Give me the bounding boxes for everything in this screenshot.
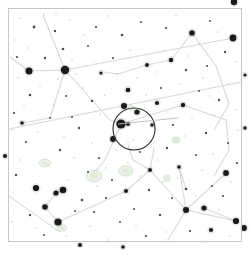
sky-map-canvas[interactable] <box>0 0 249 256</box>
star-medium <box>25 141 27 143</box>
star-bright <box>230 35 237 42</box>
star-faint <box>145 94 147 96</box>
star-medium <box>211 185 213 187</box>
star-medium <box>236 162 238 164</box>
star-bright <box>99 71 102 74</box>
deep-sky-object <box>115 163 137 179</box>
star-faint <box>237 129 239 131</box>
star-medium <box>13 112 15 114</box>
star-medium <box>218 99 220 101</box>
star-medium <box>87 171 89 173</box>
star-faint <box>83 34 85 36</box>
star-medium <box>95 26 97 28</box>
star-bright <box>3 154 7 158</box>
star-medium <box>224 51 226 53</box>
star-medium <box>74 210 76 212</box>
star-medium <box>189 230 191 232</box>
star-medium <box>198 90 200 92</box>
star-medium <box>171 197 173 199</box>
star-medium <box>121 34 124 37</box>
star-medium <box>159 214 161 216</box>
star-bright <box>233 218 239 224</box>
star-medium <box>87 45 89 47</box>
star-faint <box>96 185 98 187</box>
star-faint <box>195 195 197 197</box>
star-bright <box>20 121 24 125</box>
star-medium <box>78 127 80 129</box>
star-faint <box>82 87 84 89</box>
star-bright <box>243 126 246 129</box>
star-medium <box>185 69 187 71</box>
star-faint <box>47 164 49 166</box>
star-faint <box>218 209 220 211</box>
star-faint <box>202 77 204 79</box>
star-faint <box>93 61 95 63</box>
star-faint <box>235 109 237 111</box>
star-faint <box>43 13 45 15</box>
star-bright <box>201 205 206 210</box>
star-faint <box>198 43 200 45</box>
star-faint <box>105 167 107 169</box>
star-medium <box>98 157 100 159</box>
star-bright <box>121 103 127 109</box>
star-medium <box>59 149 61 151</box>
star-bright <box>150 123 153 126</box>
star-faint <box>107 239 109 241</box>
star-faint <box>177 177 179 179</box>
star-bright <box>145 63 149 67</box>
star-faint <box>39 175 41 177</box>
star-medium <box>148 189 150 191</box>
star-faint <box>127 141 129 143</box>
star-medium <box>15 174 17 176</box>
star-medium <box>139 151 141 153</box>
star-faint <box>139 175 141 177</box>
star-faint <box>73 157 75 159</box>
star-medium <box>222 195 224 197</box>
star-medium <box>93 211 95 213</box>
star-faint <box>65 235 67 237</box>
star-faint <box>191 117 193 119</box>
star-faint <box>165 231 167 233</box>
star-faint <box>187 55 189 57</box>
star-medium <box>133 208 135 210</box>
star-medium <box>145 235 147 237</box>
star-faint <box>229 235 231 237</box>
star-faint <box>235 61 237 63</box>
star-medium <box>166 147 168 149</box>
star-medium <box>119 221 121 223</box>
star-medium <box>160 87 162 89</box>
star-medium <box>81 199 84 202</box>
star-medium <box>140 21 142 23</box>
star-faint <box>175 14 177 16</box>
star-medium <box>29 214 31 216</box>
star-faint <box>151 39 153 41</box>
star-bright <box>169 58 173 62</box>
star-faint <box>91 142 93 144</box>
star-faint <box>162 181 164 183</box>
star-faint <box>55 13 57 15</box>
star-bright <box>183 207 189 213</box>
star-faint <box>63 136 65 138</box>
star-faint <box>136 77 138 79</box>
star-faint <box>11 129 13 131</box>
star-faint <box>184 135 186 137</box>
star-faint <box>75 73 77 75</box>
star-bright <box>189 30 195 36</box>
star-bright <box>126 88 131 93</box>
star-faint <box>17 77 19 79</box>
deep-sky-object <box>36 157 54 169</box>
star-bright <box>54 218 61 225</box>
star-medium <box>195 154 197 156</box>
star-bright <box>61 66 69 74</box>
star-faint <box>67 179 69 181</box>
star-chart-view[interactable] <box>0 0 249 256</box>
star-bright <box>134 109 139 114</box>
star-faint <box>107 15 109 17</box>
star-faint <box>111 87 113 89</box>
star-bright <box>60 187 67 194</box>
star-faint <box>19 159 21 161</box>
star-bright <box>33 185 39 191</box>
star-bright <box>42 204 48 210</box>
star-faint <box>13 39 15 41</box>
star-medium <box>33 26 36 29</box>
